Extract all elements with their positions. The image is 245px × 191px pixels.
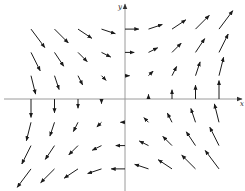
vector-arrow: [78, 52, 87, 61]
vector-arrow: [196, 62, 201, 76]
vector-arrow: [73, 122, 78, 131]
vector-arrow: [191, 109, 196, 123]
vector-arrow: [196, 15, 210, 29]
vector-arrow: [55, 76, 60, 90]
vector-arrow: [50, 122, 55, 136]
vector-arrow: [92, 146, 101, 151]
vector-arrow: [149, 48, 158, 53]
vector-arrow: [17, 169, 31, 187]
vector-arrow: [139, 141, 148, 146]
vector-arrow: [41, 169, 55, 183]
vector-arrow: [78, 29, 92, 38]
vector-arrow: [163, 136, 172, 145]
vector-arrow: [102, 29, 116, 34]
vector-arrow: [219, 11, 233, 29]
vector-arrow: [64, 169, 78, 178]
vector-arrow: [78, 76, 83, 85]
vector-arrow: [88, 169, 102, 174]
y-axis-label: y: [117, 3, 123, 11]
vector-arrow: [31, 76, 36, 94]
vector-field-diagram: x y: [0, 0, 245, 191]
vector-arrow: [22, 146, 31, 164]
vector-arrow: [186, 132, 195, 146]
vector-arrow: [172, 67, 177, 76]
vector-arrow: [55, 29, 69, 43]
vector-arrow: [219, 34, 228, 52]
vector-arrow: [149, 25, 163, 30]
vector-arrow: [144, 118, 149, 123]
vector-arrow: [149, 71, 154, 76]
vector-arrow: [196, 39, 205, 53]
vector-arrow: [172, 43, 181, 52]
vector-arrow: [69, 146, 78, 155]
vector-arrow: [31, 29, 45, 47]
x-axis-label: x: [240, 100, 244, 108]
vector-arrow: [97, 122, 102, 127]
vector-arrow: [210, 127, 219, 145]
vector-arrow: [45, 146, 54, 160]
vector-arrow: [219, 57, 224, 75]
axes: x y: [4, 3, 244, 191]
vector-arrow: [31, 52, 40, 70]
vector-arrow: [214, 104, 219, 122]
vector-arrow: [135, 164, 149, 169]
vector-arrow: [102, 52, 111, 57]
vector-arrow: [205, 151, 219, 169]
vector-arrow: [102, 76, 107, 81]
vector-arrow: [55, 52, 64, 66]
vector-arrow: [172, 20, 186, 29]
vector-arrow: [182, 155, 196, 169]
vector-arrow: [26, 122, 31, 140]
vector-arrow: [167, 113, 172, 122]
vector-arrow: [158, 160, 172, 169]
